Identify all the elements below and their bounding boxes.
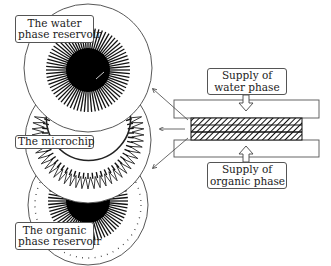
membrane-layer	[191, 118, 302, 140]
label-microchip: The microchip	[15, 135, 94, 149]
label-line: The microchip	[18, 136, 91, 148]
label-line: water phase	[210, 82, 284, 94]
label-organic-phase-reservoir: The organic phase reservoir	[15, 222, 94, 250]
label-supply-water-phase: Supply of water phase	[207, 68, 287, 95]
label-line: Supply of	[210, 164, 284, 176]
label-line: phase reservoir	[18, 29, 91, 41]
label-supply-organic-phase: Supply of organic phase	[207, 162, 287, 189]
label-water-phase-reservoir: The water phase reservoir	[15, 15, 94, 43]
label-line: Supply of	[210, 70, 284, 82]
label-line: organic phase	[210, 176, 284, 188]
label-line: phase reservoir	[18, 236, 91, 248]
